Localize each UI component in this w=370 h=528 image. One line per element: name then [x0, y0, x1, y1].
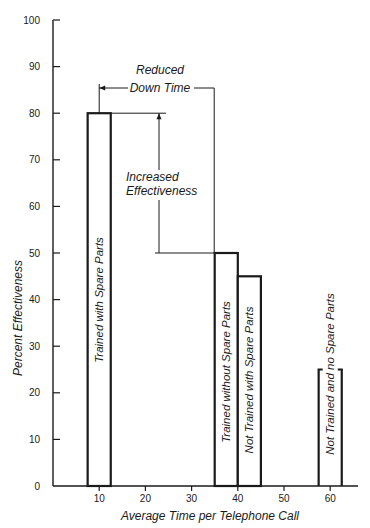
x-tick-label: 40	[232, 493, 244, 504]
x-axis-title: Average Time per Telephone Call	[120, 509, 299, 523]
bar: Not Trained with Spare Parts	[238, 276, 261, 486]
x-tick-label: 60	[325, 493, 337, 504]
bar-outline	[338, 370, 342, 487]
y-tick-label: 40	[29, 294, 41, 305]
bar-label: Trained with Spare Parts	[93, 237, 105, 363]
reduced-label: Down Time	[130, 81, 191, 95]
y-tick-label: 10	[29, 434, 41, 445]
bar: Trained without Spare Parts	[215, 253, 238, 486]
y-tick-label: 90	[29, 61, 41, 72]
arrow-left-icon	[99, 86, 105, 91]
y-tick-label: 50	[29, 248, 41, 259]
bar-label: Not Trained and no Spare Parts	[324, 293, 336, 455]
y-tick-label: 20	[29, 387, 41, 398]
y-tick-label: 60	[29, 201, 41, 212]
bar: Not Trained and no Spare Parts	[319, 293, 342, 486]
increased-label: Effectiveness	[126, 184, 197, 198]
x-tick-label: 30	[186, 493, 198, 504]
bar-label: Trained without Spare Parts	[220, 301, 232, 443]
arrow-up-icon	[157, 113, 162, 119]
y-tick-label: 70	[29, 154, 41, 165]
x-tick-label: 50	[278, 493, 290, 504]
y-tick-label: 80	[29, 108, 41, 119]
increased-label: Increased	[126, 170, 179, 184]
bar-outline	[319, 370, 323, 487]
y-tick-label: 0	[34, 481, 40, 492]
y-axis-title: Percent Effectiveness	[11, 260, 25, 376]
x-tick-label: 10	[94, 493, 106, 504]
y-tick-label: 100	[23, 15, 40, 26]
y-axis: 0102030405060708090100	[23, 15, 60, 492]
chart: 0102030405060708090100 102030405060 Trai…	[0, 0, 370, 528]
annotations: ReducedDown TimeIncreasedEffectiveness	[99, 63, 215, 253]
reduced-label: Reduced	[136, 63, 184, 77]
x-tick-label: 20	[140, 493, 152, 504]
y-tick-label: 30	[29, 341, 41, 352]
bar: Trained with Spare Parts	[88, 113, 111, 486]
bar-label: Not Trained with Spare Parts	[243, 306, 255, 453]
x-axis: 102030405060	[53, 486, 358, 504]
